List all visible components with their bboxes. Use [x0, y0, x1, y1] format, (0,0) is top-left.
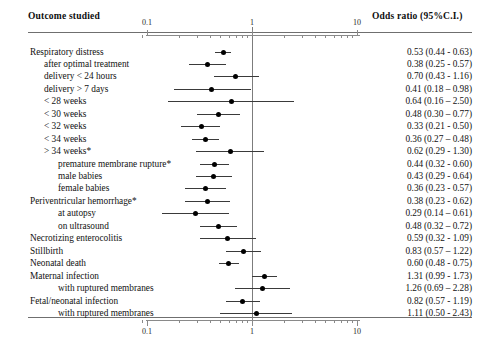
axis-tick-major	[147, 30, 148, 36]
row-outcome-label: male babies	[58, 170, 102, 183]
row-odds-ratio-value: 1.26 (0.69 – 2.28)	[405, 282, 472, 295]
axis-tick-minor	[179, 35, 180, 38]
row-odds-ratio-value: 0.44 (0.32 - 0.60)	[407, 158, 472, 171]
point-estimate-marker	[199, 124, 204, 129]
row-outcome-label: premature membrane rupture*	[58, 158, 171, 171]
axis-tick-minor	[352, 35, 353, 38]
row-outcome-label: < 30 weeks	[44, 108, 86, 121]
forest-row: < 34 weeks0.36 (0.27 – 0.48)	[0, 133, 480, 146]
forest-row: > 34 weeks*0.62 (0.29 - 1.30)	[0, 145, 480, 158]
axis-tick-minor	[284, 35, 285, 38]
axis-tick-minor	[220, 320, 221, 323]
axis-tick-minor	[302, 320, 303, 323]
point-estimate-marker	[216, 224, 221, 229]
point-estimate-marker	[229, 99, 234, 104]
axis-tick-label: 1	[250, 18, 254, 27]
row-odds-ratio-value: 0.48 (0.32 – 0.72)	[405, 220, 472, 233]
row-outcome-label: delivery > 7 days	[44, 83, 108, 96]
forest-row: Periventricular hemorrhage*0.38 (0.23 - …	[0, 195, 480, 208]
point-estimate-marker	[205, 62, 210, 67]
axis-tick-minor	[229, 320, 230, 323]
axis-tick-major	[357, 30, 358, 36]
point-estimate-marker	[254, 311, 259, 316]
row-odds-ratio-value: 0.60 (0.48 - 0.75)	[407, 257, 472, 270]
point-estimate-marker	[203, 137, 208, 142]
axis-tick-minor	[220, 35, 221, 38]
axis-tick-minor	[210, 320, 211, 323]
row-outcome-label: female babies	[58, 182, 109, 195]
axis-tick-minor	[236, 320, 237, 323]
row-outcome-label: Neonatal death	[30, 257, 86, 270]
row-odds-ratio-value: 0.48 (0.30 – 0.77)	[405, 108, 472, 121]
row-outcome-label: delivery < 24 hours	[44, 70, 117, 83]
row-outcome-label: with ruptured membranes	[58, 282, 154, 295]
row-odds-ratio-value: 0.43 (0.29 - 0.64)	[407, 170, 472, 183]
row-outcome-label: Necrotizing enterocolitis	[30, 232, 122, 245]
row-odds-ratio-value: 0.36 (0.23 - 0.57)	[407, 182, 472, 195]
point-estimate-marker	[216, 112, 221, 117]
row-odds-ratio-value: 0.64 (0.16 – 2.50)	[405, 95, 472, 108]
point-estimate-marker	[225, 236, 230, 241]
axis-tick-minor	[247, 320, 248, 323]
forest-row: < 28 weeks0.64 (0.16 – 2.50)	[0, 95, 480, 108]
axis-tick-label: 0.1	[142, 18, 152, 27]
point-estimate-marker	[260, 286, 265, 291]
axis-tick-minor	[284, 320, 285, 323]
row-outcome-label: < 32 weeks	[44, 120, 86, 133]
axis-tick-minor	[197, 320, 198, 323]
forest-row: Necrotizing enterocolitis0.59 (0.32 - 1.…	[0, 232, 480, 245]
forest-row: Fetal/neonatal infection0.82 (0.57 - 1.1…	[0, 295, 480, 308]
axis-tick-major	[147, 320, 148, 326]
axis-tick-minor	[325, 35, 326, 38]
axis-tick-minor	[179, 320, 180, 323]
row-odds-ratio-value: 0.59 (0.32 - 1.09)	[407, 232, 472, 245]
point-estimate-marker	[203, 186, 208, 191]
axis-tick-minor	[142, 35, 143, 38]
point-estimate-marker	[233, 74, 238, 79]
forest-row: on ultrasound0.48 (0.32 – 0.72)	[0, 220, 480, 233]
column-header-odds-ratio: Odds ratio (95%C.I.)	[372, 11, 463, 21]
point-estimate-marker	[262, 274, 267, 279]
axis-tick-label: 0.1	[142, 327, 152, 336]
axis-tick-label: 10	[353, 18, 361, 27]
forest-row: Maternal infection1.31 (0.99 - 1.73)	[0, 270, 480, 283]
row-odds-ratio-value: 0.83 (0.57 – 1.22)	[405, 245, 472, 258]
row-outcome-label: at autopsy	[58, 207, 96, 220]
forest-row: Stillbirth0.83 (0.57 – 1.22)	[0, 245, 480, 258]
point-estimate-marker	[212, 162, 217, 167]
row-outcome-label: with ruptured membranes	[58, 307, 154, 320]
axis-tick-minor	[341, 35, 342, 38]
axis-tick-minor	[236, 35, 237, 38]
forest-row: at autopsy0.29 (0.14 – 0.61)	[0, 207, 480, 220]
axis-tick-minor	[302, 35, 303, 38]
axis-tick-minor	[142, 320, 143, 323]
point-estimate-marker	[211, 174, 216, 179]
axis-tick-minor	[210, 35, 211, 38]
axis-tick-major	[252, 30, 253, 36]
row-odds-ratio-value: 0.53 (0.44 - 0.63)	[407, 46, 472, 59]
point-estimate-marker	[205, 199, 210, 204]
row-outcome-label: on ultrasound	[58, 220, 109, 233]
point-estimate-marker	[228, 149, 233, 154]
forest-row: < 30 weeks0.48 (0.30 – 0.77)	[0, 108, 480, 121]
row-odds-ratio-value: 0.36 (0.27 – 0.48)	[405, 133, 472, 146]
point-estimate-marker	[241, 249, 246, 254]
axis-tick-minor	[247, 35, 248, 38]
row-outcome-label: Maternal infection	[30, 270, 99, 283]
axis-tick-minor	[341, 320, 342, 323]
point-estimate-marker	[240, 299, 245, 304]
axis-tick-minor	[347, 320, 348, 323]
point-estimate-marker	[209, 87, 214, 92]
column-header-outcome: Outcome studied	[28, 11, 100, 21]
row-odds-ratio-value: 0.82 (0.57 - 1.19)	[407, 295, 472, 308]
axis-tick-minor	[352, 320, 353, 323]
forest-row: male babies0.43 (0.29 - 0.64)	[0, 170, 480, 183]
axis-tick-major	[252, 320, 253, 326]
forest-row: premature membrane rupture*0.44 (0.32 - …	[0, 158, 480, 171]
forest-row: delivery < 24 hours0.70 (0.43 - 1.16)	[0, 70, 480, 83]
forest-row: with ruptured membranes1.26 (0.69 – 2.28…	[0, 282, 480, 295]
row-outcome-label: Fetal/neonatal infection	[30, 295, 118, 308]
axis-tick-minor	[315, 320, 316, 323]
axis-tick-label: 10	[353, 327, 361, 336]
row-odds-ratio-value: 1.31 (0.99 - 1.73)	[407, 270, 472, 283]
